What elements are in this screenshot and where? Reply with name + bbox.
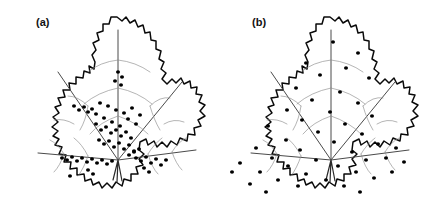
leaf-outline-a xyxy=(52,17,205,188)
data-point xyxy=(102,142,106,145)
data-point xyxy=(286,164,290,167)
data-point xyxy=(105,162,109,165)
data-point xyxy=(113,79,117,82)
data-point xyxy=(354,170,358,173)
data-point xyxy=(248,182,252,185)
data-point xyxy=(116,70,120,73)
data-point xyxy=(110,120,114,123)
data-point xyxy=(68,174,72,177)
data-point xyxy=(80,156,84,159)
data-point xyxy=(94,122,98,125)
data-point xyxy=(65,158,69,161)
panel-a: (a) xyxy=(0,0,213,206)
data-point xyxy=(147,170,151,173)
leaf-diagram-b xyxy=(213,0,426,206)
data-point xyxy=(119,134,123,137)
data-point xyxy=(342,184,346,187)
data-point xyxy=(132,150,136,153)
data-point xyxy=(276,178,280,181)
data-point xyxy=(285,108,289,111)
data-point xyxy=(134,156,138,159)
data-point xyxy=(356,51,360,54)
data-point xyxy=(138,113,142,116)
data-point xyxy=(77,108,81,111)
data-point xyxy=(82,105,86,108)
data-point xyxy=(122,147,126,150)
data-point xyxy=(304,172,308,175)
data-point xyxy=(358,190,362,193)
data-point xyxy=(110,159,114,162)
data-point xyxy=(114,108,118,111)
data-point xyxy=(94,112,98,115)
data-point xyxy=(75,159,79,162)
data-point xyxy=(230,170,234,173)
data-point xyxy=(120,75,124,78)
data-point xyxy=(117,141,121,144)
data-point xyxy=(102,116,106,119)
data-point xyxy=(124,130,128,133)
data-point xyxy=(112,145,116,148)
data-point xyxy=(127,153,131,156)
data-point xyxy=(264,190,268,193)
data-point xyxy=(384,156,388,159)
data-point xyxy=(114,128,118,131)
data-point xyxy=(159,163,163,166)
data-point xyxy=(137,147,141,150)
data-point xyxy=(95,161,99,164)
data-point xyxy=(130,106,134,109)
data-point xyxy=(154,157,158,160)
data-point xyxy=(91,172,95,175)
data-point xyxy=(118,124,122,127)
data-point xyxy=(344,66,348,69)
data-point xyxy=(106,104,110,107)
data-point xyxy=(119,83,123,86)
data-point xyxy=(324,178,328,181)
data-point xyxy=(86,168,90,171)
data-point xyxy=(350,150,354,153)
leaf-outline-b xyxy=(265,17,418,188)
data-point xyxy=(336,164,340,167)
data-point xyxy=(134,122,138,125)
data-point xyxy=(370,114,374,117)
data-point xyxy=(90,107,94,110)
data-point xyxy=(331,40,335,43)
data-point xyxy=(85,160,89,163)
data-point xyxy=(144,155,148,158)
data-point xyxy=(298,148,302,151)
data-point xyxy=(376,142,380,145)
data-point xyxy=(364,158,368,161)
data-point xyxy=(394,146,398,149)
data-point xyxy=(328,110,332,113)
data-point xyxy=(254,146,258,149)
data-point xyxy=(126,117,130,120)
data-point xyxy=(104,125,108,128)
data-point xyxy=(314,158,318,161)
data-point xyxy=(402,160,406,163)
data-point xyxy=(107,139,111,142)
data-point xyxy=(70,155,74,158)
data-point xyxy=(338,90,342,93)
panel-b: (b) xyxy=(213,0,426,206)
data-point xyxy=(270,156,274,159)
data-point xyxy=(367,76,371,79)
data-point xyxy=(97,138,101,141)
data-point xyxy=(343,122,347,125)
figure-container: (a) xyxy=(0,0,426,206)
data-point xyxy=(390,170,394,173)
data-point xyxy=(266,124,270,127)
data-point xyxy=(300,118,304,121)
data-point xyxy=(360,132,364,135)
data-point xyxy=(100,158,104,161)
data-point xyxy=(109,131,113,134)
leaf-diagram-a xyxy=(0,0,213,206)
data-point xyxy=(332,140,336,143)
data-point xyxy=(90,157,94,160)
data-point xyxy=(72,104,76,107)
data-point xyxy=(356,101,360,104)
data-point xyxy=(129,136,133,139)
data-point xyxy=(60,156,64,159)
data-point xyxy=(316,130,320,133)
data-point xyxy=(98,101,102,104)
data-point xyxy=(122,111,126,114)
data-point xyxy=(258,170,262,173)
